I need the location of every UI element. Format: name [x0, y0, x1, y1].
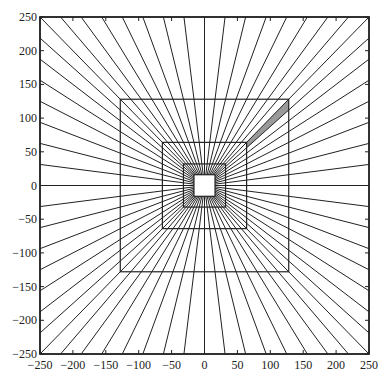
radial-ray — [40, 164, 194, 184]
radial-ray — [40, 187, 194, 207]
radial-ray — [122, 196, 199, 354]
radial-ray — [40, 38, 194, 176]
radial-ray — [207, 17, 245, 175]
radial-ray — [215, 191, 369, 270]
y-tick-label: −100 — [12, 246, 37, 260]
radial-ray — [40, 194, 194, 312]
radial-ray — [40, 17, 194, 175]
radial-ray — [212, 17, 327, 175]
y-tick-label: 50 — [25, 145, 37, 159]
radial-rays — [40, 17, 369, 354]
radial-ray — [215, 195, 369, 333]
radial-ray — [163, 17, 201, 175]
radial-ray — [206, 196, 225, 354]
x-tick-label: 100 — [261, 358, 279, 372]
y-tick-label: −250 — [12, 347, 37, 361]
radial-ray — [215, 59, 369, 177]
x-tick-label: −50 — [162, 358, 181, 372]
radial-ray — [210, 17, 287, 175]
radial-ray — [215, 194, 369, 312]
radial-ray — [81, 196, 196, 354]
radial-ray — [215, 187, 369, 207]
radial-ray — [40, 191, 194, 270]
y-tick-label: 100 — [19, 111, 37, 125]
y-tick-label: −50 — [18, 212, 37, 226]
x-tick-label: −200 — [61, 358, 86, 372]
y-tick-label: −150 — [12, 280, 37, 294]
radial-ray — [40, 143, 194, 182]
radial-ray — [214, 17, 349, 175]
radial-ray — [214, 196, 349, 354]
radial-ray — [215, 17, 369, 175]
radial-ray — [40, 188, 194, 227]
x-tick-label: −150 — [93, 358, 118, 372]
x-tick-label: 0 — [202, 358, 208, 372]
radial-ray — [163, 196, 201, 354]
radial-ray — [207, 196, 245, 354]
radial-ray — [61, 17, 196, 175]
x-tick-label: −100 — [126, 358, 151, 372]
radial-ray — [61, 196, 196, 354]
x-tick-label: 150 — [294, 358, 312, 372]
radial-ray — [212, 196, 327, 354]
x-axis-ticks: −250−200−150−100−50050100150200250 — [28, 17, 378, 372]
radial-ray — [122, 17, 199, 175]
y-tick-label: 200 — [19, 44, 37, 58]
radial-ray — [206, 17, 225, 175]
y-tick-label: 250 — [19, 10, 37, 24]
radial-ray — [210, 196, 287, 354]
radial-ray — [215, 38, 369, 176]
radial-ray — [215, 101, 369, 180]
radial-ray — [215, 196, 369, 354]
radial-ray — [40, 59, 194, 177]
square-16 — [194, 175, 215, 197]
x-tick-label: 50 — [231, 358, 243, 372]
polar-grid-diagram: −250−200−150−100−50050100150200250 −250−… — [0, 0, 388, 389]
x-tick-label: 250 — [360, 358, 378, 372]
y-tick-label: 0 — [31, 179, 37, 193]
radial-ray — [184, 17, 203, 175]
radial-ray — [215, 188, 369, 227]
radial-ray — [40, 196, 194, 354]
x-tick-label: 200 — [327, 358, 345, 372]
radial-ray — [215, 164, 369, 184]
radial-ray — [184, 196, 203, 354]
radial-ray — [40, 101, 194, 180]
radial-ray — [215, 143, 369, 182]
radial-ray — [81, 17, 196, 175]
y-tick-label: 150 — [19, 77, 37, 91]
y-tick-label: −200 — [12, 313, 37, 327]
radial-ray — [40, 195, 194, 333]
